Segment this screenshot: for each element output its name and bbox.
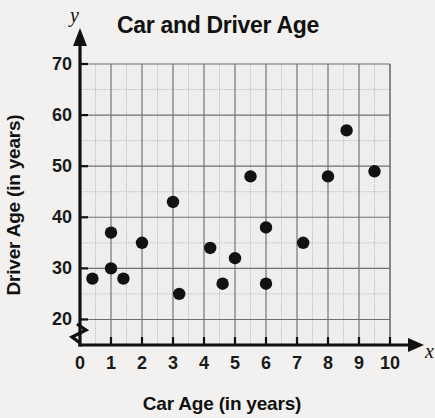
x-tick-label: 3	[168, 353, 178, 373]
x-tick-label: 7	[292, 353, 302, 373]
y-axis-title: Driver Age (in years)	[3, 115, 24, 296]
data-point	[340, 124, 352, 136]
data-point	[216, 277, 228, 289]
y-tick-label: 60	[52, 105, 72, 125]
chart-title: Car and Driver Age	[117, 12, 319, 38]
x-tick-label: 5	[230, 353, 240, 373]
y-tick-label: 30	[52, 258, 72, 278]
data-point	[105, 226, 117, 238]
scatter-plot-figure: 012345678910 203040506070 Car and Driver…	[0, 0, 435, 418]
x-tick-label: 0	[75, 353, 85, 373]
x-axis-letter: x	[424, 340, 434, 362]
x-tick-label: 8	[323, 353, 333, 373]
data-point	[86, 272, 98, 284]
x-tick-label: 9	[354, 353, 364, 373]
x-tick-label: 4	[199, 353, 209, 373]
y-tick-label: 40	[52, 207, 72, 227]
y-tick-label: 20	[52, 309, 72, 329]
data-point	[173, 288, 185, 300]
x-tick-label: 2	[137, 353, 147, 373]
data-point	[204, 242, 216, 254]
y-tick-label: 50	[52, 156, 72, 176]
x-tick-label: 6	[261, 353, 271, 373]
data-point	[260, 277, 272, 289]
data-point	[117, 272, 129, 284]
data-point	[322, 170, 334, 182]
data-point	[229, 252, 241, 264]
x-tick-label: 1	[106, 353, 116, 373]
y-tick-label: 70	[52, 54, 72, 74]
data-point	[260, 221, 272, 233]
data-point	[297, 237, 309, 249]
data-point	[244, 170, 256, 182]
data-point	[136, 237, 148, 249]
x-axis-title: Car Age (in years)	[143, 393, 301, 414]
x-tick-label: 10	[380, 353, 400, 373]
data-point	[167, 196, 179, 208]
chart-canvas: 012345678910 203040506070 Car and Driver…	[0, 0, 435, 418]
data-point	[368, 165, 380, 177]
data-point	[105, 262, 117, 274]
y-axis-letter: y	[68, 4, 79, 27]
